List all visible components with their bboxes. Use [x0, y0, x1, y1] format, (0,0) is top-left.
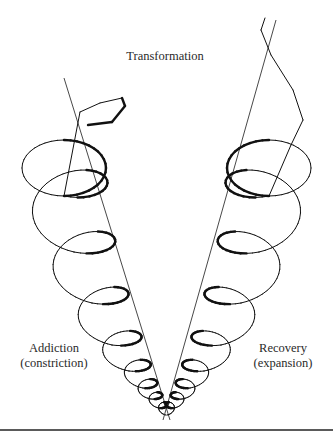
spiral-stroke-segment — [23, 159, 25, 163]
spiral-stroke-segment — [291, 120, 303, 145]
spiral-stroke-segment — [292, 229, 296, 234]
spiral-stroke-segment — [265, 248, 271, 250]
spiral-stroke-segment — [35, 224, 38, 229]
spiral-stroke-segment — [299, 148, 303, 151]
spiral-stroke-segment — [294, 145, 299, 148]
spiral-stroke-segment — [75, 297, 80, 299]
spiral-stroke-segment — [33, 213, 34, 218]
spiral-stroke-segment — [211, 368, 214, 369]
spiral-stroke-segment — [118, 368, 121, 369]
spiral-stroke-segment — [286, 183, 290, 187]
spiral-stroke-segment — [22, 164, 23, 168]
spiral-stroke-segment — [271, 283, 274, 287]
spiral-stroke-segment — [45, 193, 51, 195]
transformation-title: Transformation — [110, 49, 220, 64]
spiral-stroke-segment — [215, 366, 218, 368]
spiral-stroke-segment — [306, 155, 309, 159]
spiral-stroke-segment — [59, 283, 62, 287]
spiral-stroke-segment — [221, 344, 226, 345]
spiral-stroke-segment — [269, 244, 273, 248]
spiral-stroke-segment — [39, 191, 45, 193]
spiral-stroke-segment — [125, 370, 129, 371]
spiral-stroke-segment — [33, 202, 34, 207]
spiral-stroke-segment — [235, 338, 239, 340]
recovery-label: Recovery (expansion) — [243, 341, 323, 371]
spiral-stroke-segment — [267, 287, 271, 291]
spiral-stroke-segment — [53, 260, 54, 265]
spiral-stroke-segment — [50, 242, 55, 245]
spiral-stroke-segment — [253, 307, 254, 311]
spiral-stroke-segment — [80, 304, 82, 307]
spiral-stroke-segment — [249, 326, 251, 329]
spiral-stroke-segment — [276, 140, 282, 141]
spiral-stroke-segment — [258, 294, 263, 297]
spiral-stroke-segment — [34, 188, 39, 191]
spiral-stroke-segment — [303, 181, 306, 185]
spiral-stroke-segment — [55, 251, 57, 255]
spiral-stroke-segment — [298, 218, 300, 223]
spiral-stroke-segment — [213, 332, 216, 333]
spiral-stroke-segment — [243, 295, 246, 298]
spiral-stroke-segment — [265, 240, 269, 243]
spiral-stroke-segment — [223, 287, 227, 288]
spiral-stroke-segment — [53, 269, 54, 274]
spiral-stroke-segment — [46, 238, 51, 242]
spiral-stroke-segment — [36, 192, 39, 197]
spiral-stroke-segment — [264, 172, 270, 174]
spiral-stroke-segment — [57, 174, 63, 177]
spiral-stroke-segment — [51, 195, 57, 196]
spiral-stroke-segment — [87, 295, 90, 298]
spiral-stroke-segment — [30, 184, 34, 187]
spiral-stroke-segment — [255, 235, 260, 237]
spiral-stroke-segment — [51, 140, 57, 141]
spiral-stroke-segment — [218, 364, 221, 366]
spiral-stroke-segment — [239, 335, 243, 338]
spiral-stroke-segment — [309, 159, 311, 163]
spiral-stroke-segment — [100, 98, 122, 103]
spiral-stroke-segment — [66, 291, 71, 294]
spiral-stroke-segment — [38, 229, 42, 234]
spiral-stroke-segment — [74, 252, 80, 253]
spiral-stroke-segment — [52, 176, 57, 179]
spiral-stroke-segment — [115, 366, 118, 368]
spiral-stroke-segment — [310, 168, 311, 172]
spiral-stroke-segment — [98, 340, 103, 342]
spiral-stroke-segment — [81, 326, 83, 329]
spiral-stroke-segment — [253, 252, 259, 253]
spiral-stroke-segment — [260, 238, 265, 241]
spiral-stroke-segment — [294, 192, 297, 197]
spiral-stroke-segment — [112, 364, 115, 366]
addiction-label-line2: (constriction) — [14, 356, 94, 371]
spiral-stroke-segment — [261, 18, 265, 30]
spiral-stroke-segment — [250, 234, 255, 236]
spiral-stroke-segment — [243, 332, 246, 335]
spiral-stroke-segment — [69, 171, 75, 172]
spiral-stroke-segment — [23, 172, 25, 176]
spiral-stroke-segment — [75, 170, 81, 171]
spiral-stroke-segment — [117, 332, 120, 333]
spiral-stroke-segment — [279, 269, 280, 274]
spiral-stroke-segment — [61, 244, 65, 248]
spiral-stroke-segment — [221, 362, 224, 364]
spiral-stroke-segment — [230, 340, 235, 342]
spiral-stroke-segment — [83, 232, 88, 233]
spiral-stroke-segment — [247, 329, 250, 332]
spiral-stroke-segment — [122, 98, 125, 106]
spiral-stroke-segment — [309, 172, 311, 176]
spiral-stroke-segment — [114, 333, 117, 334]
spiral-stroke-segment — [274, 278, 277, 282]
spiral-stroke-segment — [88, 232, 93, 233]
spiral-stroke-segment — [231, 289, 235, 291]
spiral-stroke-segment — [269, 145, 291, 196]
spiral-stroke-segment — [227, 288, 231, 289]
spiral-stroke-segment — [24, 177, 27, 181]
spiral-stroke-segment — [62, 287, 66, 291]
spiral-stroke-segment — [299, 184, 303, 187]
spiral-stroke-segment — [90, 292, 94, 294]
spiral-stroke-segment — [303, 152, 306, 156]
spiral-stroke-segment — [299, 202, 300, 207]
bottom-divider — [0, 429, 333, 431]
spiral-stroke-segment — [39, 143, 45, 145]
spiral-stroke-segment — [276, 195, 282, 196]
spiral-stroke-segment — [271, 55, 293, 90]
